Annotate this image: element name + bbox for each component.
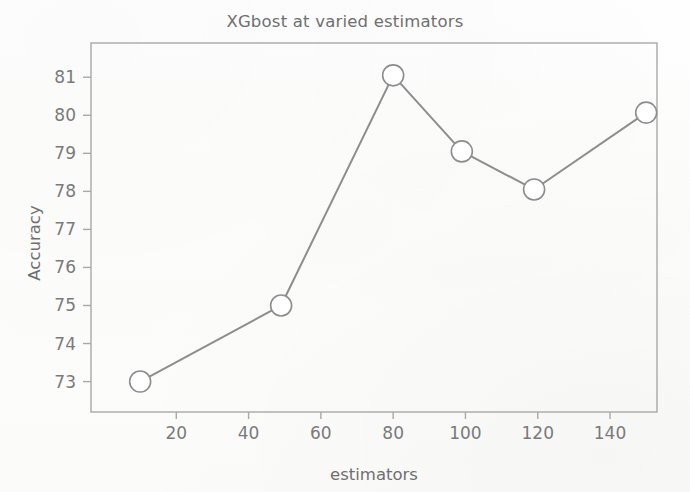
data-point-marker (524, 179, 545, 200)
x-axis-title: estimators (330, 465, 418, 484)
data-point-marker (383, 65, 404, 86)
y-tick-label: 78 (54, 181, 76, 201)
y-axis-title: Accuracy (25, 205, 44, 281)
y-tick-label: 79 (54, 143, 76, 163)
y-tick-label: 81 (54, 67, 76, 87)
x-tick-label: 20 (165, 423, 187, 443)
plot-frame (91, 43, 657, 412)
data-point-marker (130, 371, 151, 392)
data-point-marker (451, 141, 472, 162)
y-tick-label: 73 (54, 372, 76, 392)
x-tick-label: 40 (238, 423, 260, 443)
x-tick-label: 80 (382, 423, 404, 443)
y-axis-ticks: 737475767778798081 (54, 67, 91, 391)
x-tick-label: 140 (594, 423, 626, 443)
y-tick-label: 76 (54, 257, 76, 277)
x-axis-ticks: 20406080100120140 (165, 412, 626, 443)
data-point-marker (636, 102, 657, 123)
x-tick-label: 60 (310, 423, 332, 443)
data-point-marker (271, 295, 292, 316)
y-tick-label: 77 (54, 219, 76, 239)
x-tick-label: 100 (449, 423, 481, 443)
x-tick-label: 120 (522, 423, 554, 443)
y-tick-label: 75 (54, 295, 76, 315)
data-line-accuracy (140, 75, 646, 381)
data-markers (130, 65, 657, 392)
plot-canvas: 20406080100120140 737475767778798081 est… (0, 0, 690, 492)
y-tick-label: 80 (54, 105, 76, 125)
y-tick-label: 74 (54, 334, 76, 354)
chart-figure: XGbost at varied estimators 204060801001… (0, 0, 690, 492)
